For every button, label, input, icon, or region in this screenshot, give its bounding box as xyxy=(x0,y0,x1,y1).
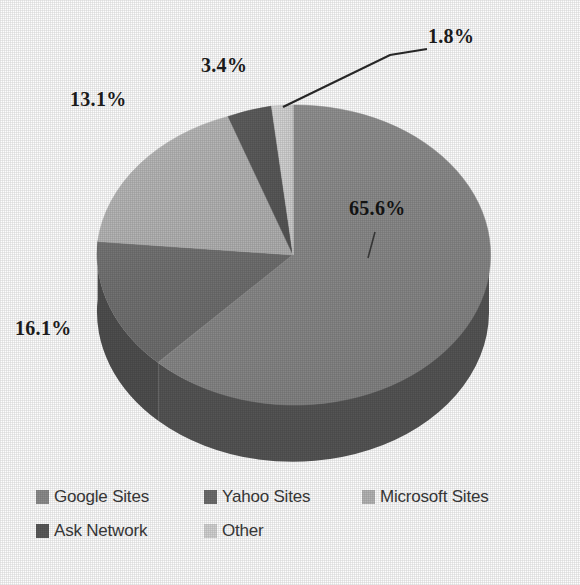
legend-swatch-icon-other xyxy=(204,524,217,538)
legend-swatch-icon-yahoo-sites xyxy=(204,490,217,504)
pie-label-google-sites: 65.6% xyxy=(349,197,406,220)
legend-label-other: Other xyxy=(222,521,264,541)
pie-label-ask-network: 3.4% xyxy=(201,54,247,77)
pie-label-microsoft-sites: 13.1% xyxy=(70,88,127,111)
legend-swatch-icon-google-sites xyxy=(36,490,49,504)
legend-swatch-icon-ask-network xyxy=(36,524,49,538)
legend-label-microsoft-sites: Microsoft Sites xyxy=(380,487,488,507)
legend-row-1: Google Sites Yahoo Sites Microsoft Sites xyxy=(0,480,580,514)
pie-chart-figure: 65.6% 16.1% 13.1% 3.4% 1.8% Google Sites… xyxy=(0,0,580,585)
pie-plot-area: 65.6% 16.1% 13.1% 3.4% 1.8% xyxy=(0,0,580,470)
legend-row-2: Ask Network Other xyxy=(0,514,580,548)
pie-label-other: 1.8% xyxy=(428,25,474,48)
legend-label-yahoo-sites: Yahoo Sites xyxy=(222,487,310,507)
legend-item-google-sites[interactable]: Google Sites xyxy=(36,487,204,507)
legend-label-ask-network: Ask Network xyxy=(54,521,147,541)
legend-item-yahoo-sites[interactable]: Yahoo Sites xyxy=(204,487,362,507)
leader-line-other xyxy=(283,49,427,107)
legend-item-ask-network[interactable]: Ask Network xyxy=(36,521,204,541)
legend-item-other[interactable]: Other xyxy=(204,521,264,541)
pie-svg xyxy=(0,0,580,470)
legend-swatch-icon-microsoft-sites xyxy=(362,490,375,504)
legend-label-google-sites: Google Sites xyxy=(54,487,149,507)
pie-label-yahoo-sites: 16.1% xyxy=(15,317,72,340)
legend-item-microsoft-sites[interactable]: Microsoft Sites xyxy=(362,487,488,507)
chart-legend: Google Sites Yahoo Sites Microsoft Sites… xyxy=(0,480,580,580)
